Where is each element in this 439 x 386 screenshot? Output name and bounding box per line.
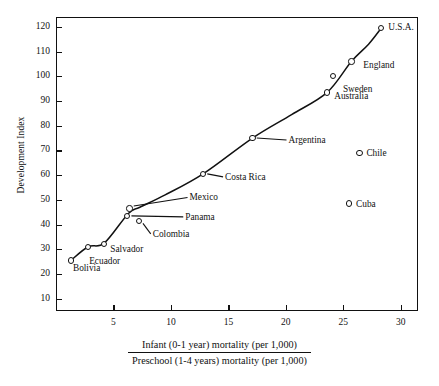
- data-point-marker: [356, 150, 362, 156]
- data-point-marker: [136, 218, 142, 224]
- y-tick-mark: [56, 126, 62, 127]
- x-tick-label: 20: [273, 317, 299, 327]
- data-point-marker: [126, 205, 132, 211]
- data-point-label: Mexico: [190, 192, 218, 202]
- x-axis-caption-numerator: Infant (0-1 year) mortality (per 1,000): [128, 338, 311, 353]
- y-tick-mark: [56, 274, 62, 275]
- data-point-marker: [346, 200, 352, 206]
- data-point-label: U.S.A.: [388, 22, 414, 32]
- y-tick-mark: [56, 76, 62, 77]
- x-tick-label: 15: [215, 317, 241, 327]
- data-point-label: Cuba: [356, 199, 376, 209]
- data-point-label: Salvador: [110, 244, 143, 254]
- scatter-chart-figure: Development Index 1020304050607080901001…: [0, 0, 439, 386]
- data-point-marker: [249, 135, 255, 141]
- y-tick-mark: [56, 52, 62, 53]
- data-point-label: Chile: [366, 148, 386, 158]
- data-point-marker: [324, 89, 330, 95]
- y-tick-mark: [56, 175, 62, 176]
- y-tick-mark: [56, 27, 62, 28]
- x-tick-label: 25: [330, 317, 356, 327]
- data-point-label: Sweden: [343, 84, 372, 94]
- data-point-label: Colombia: [153, 229, 190, 239]
- x-tick-label: 30: [388, 317, 414, 327]
- data-point-label: England: [363, 60, 394, 70]
- y-tick-mark: [56, 299, 62, 300]
- x-tick-label: 5: [100, 317, 126, 327]
- y-tick-mark: [56, 200, 62, 201]
- data-point-label: Ecuador: [89, 256, 120, 266]
- data-point-label: Argentina: [289, 135, 326, 145]
- y-tick-mark: [56, 101, 62, 102]
- y-tick-mark: [56, 249, 62, 250]
- x-axis-caption: Infant (0-1 year) mortality (per 1,000) …: [0, 338, 439, 368]
- data-point-marker: [348, 58, 354, 64]
- x-axis-caption-fraction: Infant (0-1 year) mortality (per 1,000) …: [128, 338, 311, 367]
- data-point-label: Costa Rica: [225, 172, 266, 182]
- data-point-label: Panama: [185, 212, 214, 222]
- y-tick-mark: [56, 225, 62, 226]
- x-axis-caption-denominator: Preschool (1-4 years) mortality (per 1,0…: [128, 353, 311, 367]
- y-tick-mark: [56, 150, 62, 151]
- x-tick-label: 10: [158, 317, 184, 327]
